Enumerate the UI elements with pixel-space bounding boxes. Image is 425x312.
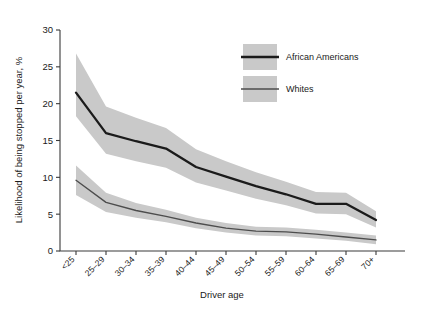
legend-label: African Americans	[286, 52, 359, 62]
legend-item: Whites	[241, 76, 314, 102]
x-tick-label: 70+	[359, 254, 376, 271]
x-tick-label: <25	[59, 254, 76, 271]
y-tick-label: 20	[42, 98, 53, 109]
x-tick-label: 65–69	[323, 254, 347, 278]
y-axis-title: Likelihood of being stopped per year, %	[13, 56, 24, 223]
y-axis-ticks	[56, 30, 60, 251]
x-tick-label: 25–29	[83, 254, 107, 278]
likelihood-of-being-stopped-line-chart: 051015202530 <2525–2930–3435–3940–4445–4…	[0, 0, 425, 312]
chart-legend: African AmericansWhites	[241, 44, 359, 102]
x-tick-label: 40–44	[173, 254, 197, 278]
y-axis-tick-labels: 051015202530	[42, 24, 53, 256]
y-tick-label: 15	[42, 135, 53, 146]
legend-label: Whites	[286, 84, 314, 94]
legend-item: African Americans	[241, 44, 359, 70]
x-tick-label: 50–54	[233, 254, 257, 278]
x-axis-title: Driver age	[200, 289, 244, 300]
x-axis-tick-labels: <2525–2930–3435–3940–4445–4950–5455–5960…	[59, 254, 376, 278]
y-tick-label: 25	[42, 61, 53, 72]
y-tick-label: 0	[48, 245, 53, 256]
chart-container: 051015202530 <2525–2930–3435–3940–4445–4…	[0, 0, 425, 312]
x-tick-label: 55–59	[263, 254, 287, 278]
y-tick-label: 10	[42, 172, 53, 183]
x-axis-ticks	[76, 251, 376, 255]
x-tick-label: 60–64	[293, 254, 317, 278]
y-tick-label: 5	[48, 209, 53, 220]
x-tick-label: 45–49	[203, 254, 227, 278]
y-tick-label: 30	[42, 24, 53, 35]
confidence-bands-group	[76, 54, 376, 245]
x-tick-label: 35–39	[143, 254, 167, 278]
x-tick-label: 30–34	[113, 254, 137, 278]
